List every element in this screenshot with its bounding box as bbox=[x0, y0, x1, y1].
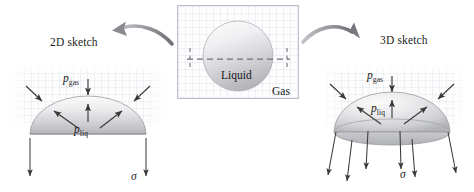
3d-sigma-arrow-1 bbox=[328, 132, 336, 175]
2d-pliq-label: pliq bbox=[74, 124, 88, 138]
3d-pgas-subscript: gas bbox=[373, 75, 383, 84]
2d-sigma-label: σ bbox=[131, 171, 137, 183]
2d-pliq-subscript: liq bbox=[80, 129, 88, 138]
connector-arrow-left bbox=[112, 22, 172, 45]
connector-arrow-right bbox=[303, 23, 360, 43]
2d-sketch-title: 2D sketch bbox=[50, 37, 98, 49]
3d-pliq-subscript: liq bbox=[377, 108, 385, 117]
3d-gas-arrow-right bbox=[438, 84, 454, 99]
2d-pgas-label: pgas bbox=[63, 73, 79, 87]
3d-gas-arrow-left bbox=[330, 84, 346, 99]
liquid-label: Liquid bbox=[221, 70, 252, 82]
figure-artwork bbox=[0, 0, 474, 192]
3d-pgas-label: pgas bbox=[367, 70, 383, 84]
3d-sigma-label: σ bbox=[400, 169, 406, 181]
3d-sketch-title: 3D sketch bbox=[380, 35, 428, 47]
2d-gas-arrow-left bbox=[26, 86, 42, 101]
surface-tension-figure: 2D sketch 3D sketch Liquid Gas pgas pliq… bbox=[0, 0, 474, 192]
3d-pliq-label: pliq bbox=[371, 103, 385, 117]
2d-pgas-subscript: gas bbox=[69, 78, 79, 87]
3d-sigma-arrow-2 bbox=[347, 140, 352, 181]
3d-sigma-arrow-5 bbox=[412, 139, 415, 177]
3d-sketch-diagram bbox=[328, 76, 456, 181]
2d-gas-arrow-right bbox=[134, 86, 150, 101]
3d-sigma-arrow-6 bbox=[448, 132, 456, 173]
gas-label: Gas bbox=[272, 86, 290, 98]
